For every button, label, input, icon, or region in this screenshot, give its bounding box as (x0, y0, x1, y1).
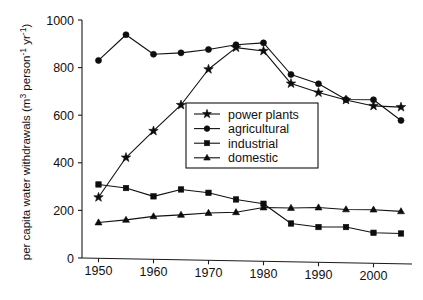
legend-marker-square (204, 141, 209, 146)
data-point (314, 88, 323, 97)
x-tick-label: 1990 (305, 268, 333, 282)
data-point (150, 51, 156, 57)
data-point (288, 221, 293, 226)
data-point (206, 190, 211, 195)
data-point (205, 209, 212, 215)
legend-label: agricultural (228, 122, 289, 136)
legend-label: domestic (228, 151, 278, 165)
data-point (96, 182, 101, 187)
data-point (178, 50, 184, 56)
legend-label: industrial (228, 137, 278, 151)
series-line (99, 184, 402, 233)
data-point (370, 206, 377, 212)
data-point (288, 204, 295, 210)
data-point (204, 64, 213, 73)
data-point (398, 117, 404, 123)
data-point (123, 32, 129, 38)
x-axis-line (82, 258, 412, 264)
series-domestic (95, 204, 404, 225)
y-axis-title-text: per capita water withdrawals (m3 person-… (18, 24, 32, 261)
x-tick-label: 1980 (250, 267, 278, 281)
data-point (178, 187, 183, 192)
data-point (205, 46, 211, 52)
y-tick-label: 600 (53, 109, 74, 123)
data-point (343, 96, 349, 102)
legend-marker-circle (204, 126, 210, 132)
data-point (398, 231, 403, 236)
x-tick-label: 1960 (140, 265, 168, 279)
y-tick-label: 0 (67, 252, 74, 266)
x-tick-label: 1970 (195, 266, 223, 280)
data-point (95, 57, 101, 63)
y-tick-label: 200 (53, 204, 74, 218)
data-point (151, 194, 156, 199)
data-point (371, 230, 376, 235)
y-tick-label: 1000 (46, 14, 74, 28)
y-axis-title: per capita water withdrawals (m3 person-… (18, 24, 32, 261)
x-tick-label: 1950 (85, 264, 113, 278)
data-point (343, 224, 348, 229)
data-point (123, 185, 128, 190)
data-point (315, 81, 321, 87)
data-point (94, 192, 103, 201)
data-point (288, 71, 294, 77)
line-chart: 02004006008001000 1950196019701980199020… (0, 0, 423, 300)
data-point (233, 42, 239, 48)
legend-label: power plants (228, 108, 299, 122)
series-industrial (96, 182, 404, 236)
y-axis-tick-labels: 02004006008001000 (46, 14, 74, 266)
data-point (233, 197, 238, 202)
y-tick-label: 400 (53, 156, 74, 170)
series-line (99, 208, 402, 223)
data-point (260, 40, 266, 46)
data-point (396, 102, 405, 111)
x-tick-label: 2000 (360, 269, 388, 283)
x-axis-tick-labels: 195019601970198019902000 (85, 264, 388, 283)
y-tick-label: 800 (53, 61, 74, 75)
data-point (370, 97, 376, 103)
data-point (315, 204, 322, 210)
chart-figure: 02004006008001000 1950196019701980199020… (0, 0, 423, 300)
data-point (316, 224, 321, 229)
chart-legend[interactable]: power plantsagriculturalindustrialdomest… (186, 103, 318, 168)
